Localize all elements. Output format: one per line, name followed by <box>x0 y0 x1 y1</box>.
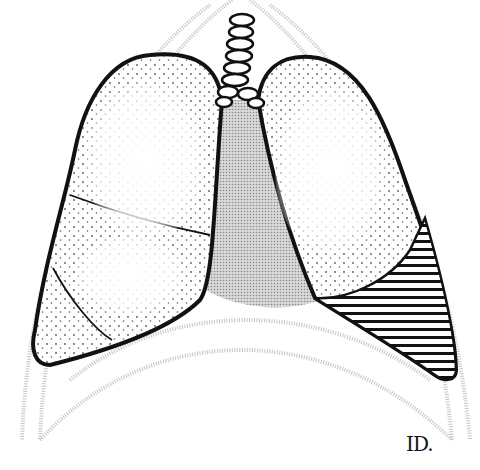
lung-illustration <box>0 0 480 470</box>
artist-signature: ID. <box>406 432 433 456</box>
trachea <box>216 14 264 108</box>
right-lung <box>33 54 222 365</box>
left-lung <box>258 57 456 379</box>
